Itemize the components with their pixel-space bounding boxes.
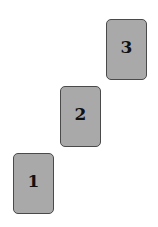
card-1-label: 1 <box>28 173 40 190</box>
card-3: 3 <box>106 19 147 80</box>
card-3-label: 3 <box>121 39 133 56</box>
card-2-label: 2 <box>75 106 87 123</box>
card-2: 2 <box>60 86 101 147</box>
card-1: 1 <box>13 153 54 214</box>
